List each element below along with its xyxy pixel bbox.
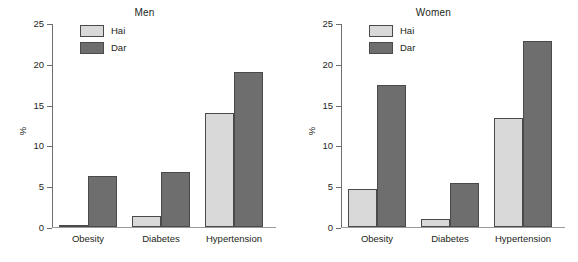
legend-label-women-dar: Dar xyxy=(400,43,415,53)
x-tick-label-women-diabetes: Diabetes xyxy=(431,233,469,244)
bar-men-obesity-dar[interactable] xyxy=(88,176,117,227)
legend-label-women-hai: Hai xyxy=(400,26,414,36)
y-tick-label-men-1: 5 xyxy=(39,182,44,192)
panel-women: Women % 0 5 10 15 20 xyxy=(289,0,578,262)
bar-women-obesity-hai[interactable] xyxy=(348,189,377,227)
y-tick-label-men-0: 0 xyxy=(39,223,44,233)
y-tick-label-men-2: 10 xyxy=(33,142,44,152)
figure-two-panel-bar-chart: Men % 0 5 10 15 20 xyxy=(0,0,578,262)
x-tick-label-men-hypertension: Hypertension xyxy=(206,233,262,244)
legend-swatch-icon-hai xyxy=(369,25,393,37)
x-axis-line-women xyxy=(341,227,565,228)
panel-title-women: Women xyxy=(289,7,578,18)
x-tick-label-men-obesity: Obesity xyxy=(72,233,104,244)
bar-women-hypertension-hai[interactable] xyxy=(494,118,523,227)
legend-label-men-dar: Dar xyxy=(111,43,126,53)
x-tick-label-men-diabetes: Diabetes xyxy=(142,233,180,244)
legend-women: Hai Dar xyxy=(369,24,415,58)
x-tick-label-women-obesity: Obesity xyxy=(361,233,393,244)
legend-swatch-icon-dar xyxy=(369,42,393,54)
bar-women-diabetes-dar[interactable] xyxy=(450,183,479,227)
y-tick-label-women-4: 20 xyxy=(322,60,333,70)
legend-item-men-dar[interactable]: Dar xyxy=(80,41,126,55)
y-tick-label-women-3: 15 xyxy=(322,101,333,111)
y-axis-label-women: % xyxy=(306,127,317,135)
bar-men-diabetes-hai[interactable] xyxy=(132,216,161,227)
y-tick-label-women-0: 0 xyxy=(328,223,333,233)
panel-title-men: Men xyxy=(0,7,289,18)
bar-women-hypertension-dar[interactable] xyxy=(523,41,552,227)
legend-item-women-hai[interactable]: Hai xyxy=(369,24,415,38)
y-tick-label-women-5: 25 xyxy=(322,19,333,29)
bar-group-women-diabetes: Diabetes xyxy=(421,24,489,227)
x-tick-label-women-hypertension: Hypertension xyxy=(495,233,551,244)
bar-men-obesity-hai[interactable] xyxy=(59,225,88,227)
legend-men: Hai Dar xyxy=(80,24,126,58)
bar-women-diabetes-hai[interactable] xyxy=(421,219,450,227)
bar-men-hypertension-hai[interactable] xyxy=(205,113,234,227)
y-tick-label-men-5: 25 xyxy=(33,19,44,29)
y-axis-label-men: % xyxy=(17,127,28,135)
y-tick-label-men-3: 15 xyxy=(33,101,44,111)
bar-group-women-hypertension: Hypertension xyxy=(494,24,562,227)
panel-men: Men % 0 5 10 15 20 xyxy=(0,0,289,262)
bar-men-diabetes-dar[interactable] xyxy=(161,172,190,227)
x-axis-line-men xyxy=(52,227,276,228)
legend-swatch-icon-dar xyxy=(80,42,104,54)
bar-group-men-hypertension: Hypertension xyxy=(205,24,273,227)
legend-item-men-hai[interactable]: Hai xyxy=(80,24,126,38)
y-tick-label-women-2: 10 xyxy=(322,142,333,152)
bar-women-obesity-dar[interactable] xyxy=(377,85,406,227)
legend-swatch-icon-hai xyxy=(80,25,104,37)
legend-label-men-hai: Hai xyxy=(111,26,125,36)
y-tick-label-women-1: 5 xyxy=(328,182,333,192)
legend-item-women-dar[interactable]: Dar xyxy=(369,41,415,55)
y-tick-label-men-4: 20 xyxy=(33,60,44,70)
bar-men-hypertension-dar[interactable] xyxy=(234,72,263,227)
bar-group-men-diabetes: Diabetes xyxy=(132,24,200,227)
